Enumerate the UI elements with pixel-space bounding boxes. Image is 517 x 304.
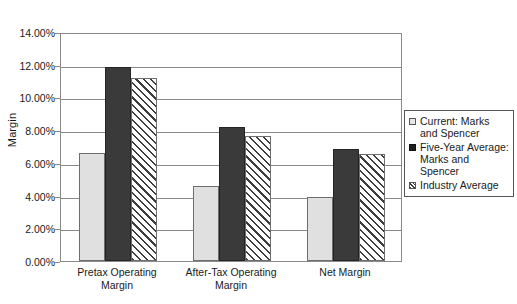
y-axis-tick-labels: 14.00%12.00%10.00%8.00%6.00%4.00%2.00%0.… [0, 0, 55, 304]
y-axis-tick-mark [55, 262, 60, 263]
legend-swatch-icon [409, 118, 416, 125]
bar [333, 149, 359, 261]
y-axis-tick-label: 4.00% [3, 192, 55, 202]
y-axis-tick-label: 12.00% [3, 61, 55, 71]
bar [307, 197, 333, 261]
bar-chart: Margin 14.00%12.00%10.00%8.00%6.00%4.00%… [0, 0, 517, 304]
y-axis-tick-label: 8.00% [3, 126, 55, 136]
bar [359, 154, 385, 261]
chart-legend: Current: Marks and SpencerFive-Year Aver… [404, 110, 514, 197]
legend-item-label: Five-Year Average: Marks and Spencer [420, 141, 509, 177]
y-axis-tick-label: 10.00% [3, 93, 55, 103]
y-axis-tick-label: 6.00% [3, 159, 55, 169]
legend-item-label: Current: Marks and Spencer [420, 115, 489, 139]
plot-area [60, 33, 402, 262]
legend-item[interactable]: Industry Average [409, 179, 509, 191]
y-axis-tick-label: 14.00% [3, 28, 55, 38]
legend-item[interactable]: Current: Marks and Spencer [409, 115, 509, 139]
legend-swatch-icon [409, 182, 416, 189]
bar-group [61, 34, 403, 261]
legend-swatch-icon [409, 144, 416, 151]
legend-item[interactable]: Five-Year Average: Marks and Spencer [409, 141, 509, 177]
y-axis-tick-label: 2.00% [3, 224, 55, 234]
x-axis-category-label: Net Margin [275, 266, 415, 279]
legend-item-label: Industry Average [420, 179, 499, 191]
